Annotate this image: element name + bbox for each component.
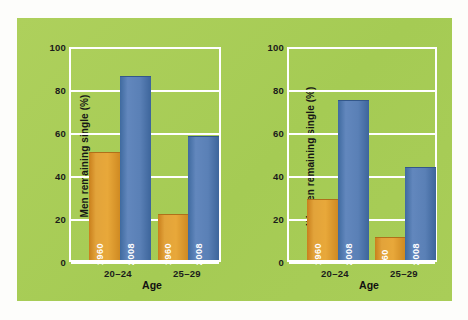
women-xtick-20-24: 20–24 [321, 268, 349, 279]
men-ytick-0: 0 [61, 257, 66, 268]
men-x-axis-label: Age [142, 279, 162, 291]
women-chart: Women remaining single (%) 100 80 60 40 … [239, 18, 452, 301]
men-xtick-20-24: 20–24 [104, 268, 132, 279]
bar-women-25-29-1960[interactable]: '60 [375, 237, 405, 260]
women-plot-area: 100 80 60 40 20 0 1960 [287, 47, 437, 262]
women-ytick-80: 80 [273, 85, 284, 96]
men-ytick-40: 40 [55, 171, 66, 182]
men-xtick-25-29: 25–29 [173, 268, 201, 279]
bar-men-20-24-2008[interactable]: 2008 [120, 76, 151, 260]
men-chart: Men remaining single (%) 100 80 60 40 20 [17, 18, 239, 301]
bar-women-20-24-2008[interactable]: 2008 [338, 100, 369, 260]
bar-label-men-20-24-2008: 2008 [126, 243, 136, 265]
women-gridline-80: 80 [289, 90, 435, 92]
men-gridline-100: 100 [71, 47, 219, 49]
bar-label-men-25-29-2008: 2008 [194, 243, 204, 265]
bar-men-25-29-1960[interactable]: 1960 [158, 214, 188, 260]
women-ytick-60: 60 [273, 128, 284, 139]
bar-women-20-24-1960[interactable]: 1960 [307, 199, 338, 260]
bar-label-men-20-24-1960: 1960 [95, 243, 105, 265]
chart-panel-background: Men remaining single (%) 100 80 60 40 20 [17, 18, 452, 301]
bar-men-20-24-1960[interactable]: 1960 [89, 152, 120, 260]
men-ytick-100: 100 [50, 42, 66, 53]
bar-label-men-25-29-1960: 1960 [163, 243, 173, 265]
women-ytick-20: 20 [273, 214, 284, 225]
bar-men-25-29-2008[interactable]: 2008 [188, 136, 219, 260]
women-ytick-0: 0 [279, 257, 284, 268]
bar-label-women-25-29-2008: 2008 [411, 243, 421, 265]
women-ytick-100: 100 [268, 42, 284, 53]
bar-women-25-29-2008[interactable]: 2008 [405, 167, 436, 260]
bar-label-women-25-29-1960: '60 [380, 249, 390, 263]
women-gridline-100: 100 [289, 47, 435, 49]
men-ytick-80: 80 [55, 85, 66, 96]
figure-root: Men remaining single (%) 100 80 60 40 20 [0, 0, 468, 320]
men-ytick-20: 20 [55, 214, 66, 225]
bar-label-women-20-24-2008: 2008 [344, 243, 354, 265]
women-ytick-40: 40 [273, 171, 284, 182]
men-ytick-60: 60 [55, 128, 66, 139]
women-xtick-25-29: 25–29 [390, 268, 418, 279]
men-plot-area: 100 80 60 40 20 0 1960 [69, 47, 221, 262]
women-x-axis-label: Age [359, 279, 379, 291]
bar-label-women-20-24-1960: 1960 [313, 243, 323, 265]
